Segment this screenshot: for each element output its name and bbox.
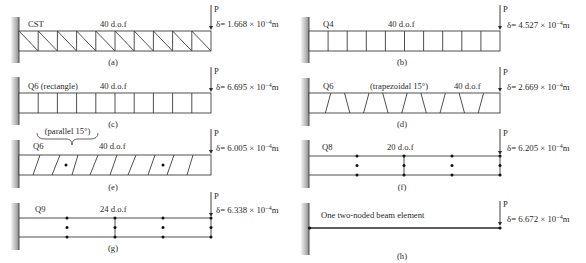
panel-caption: (g)	[108, 243, 118, 253]
panel-d-q6-trapezoidal: Q6 (trapezoidal 15°) 40 d.o.f P δ= 2.669…	[301, 67, 570, 129]
arrowhead-icon	[209, 213, 213, 217]
panel-caption: (e)	[108, 182, 118, 192]
panel-e-q6-parallel: (parallel 15°) Q6 40 d.o.f P δ= 6.005 × …	[11, 126, 279, 192]
mesh-nodes	[66, 217, 213, 239]
element-center-node	[162, 164, 165, 167]
element-type-label: Q9	[35, 204, 46, 214]
panel-b-q4: Q4 40 d.o.f P δ= 4.527 × 10−4m (b)	[301, 4, 570, 67]
arrowhead-icon	[209, 88, 213, 92]
arrowhead-icon	[498, 88, 502, 92]
load-label: P	[214, 66, 219, 76]
fixed-support-wall	[301, 78, 309, 126]
panel-caption: (a)	[108, 57, 118, 67]
element-type-label: Q8	[322, 142, 333, 152]
element-type-label: Q6 (rectangle)	[28, 81, 78, 91]
load-label: P	[214, 4, 219, 14]
deflection-value: δ= 6.695 × 10−4m	[216, 82, 279, 93]
mesh-note-label: (parallel 15°)	[45, 126, 91, 136]
panel-caption: (c)	[108, 119, 118, 129]
arrowhead-icon	[498, 26, 502, 30]
panel-h-beam-element: One two-noded beam element P δ= 6.672 × …	[301, 199, 570, 261]
dof-label: 40 d.o.f	[388, 19, 415, 29]
fixed-support-wall	[11, 140, 19, 188]
load-label: P	[503, 199, 508, 209]
panel-f-q8: Q8 20 d.o.f P δ= 6.205 × 10−4m (f)	[301, 128, 570, 192]
deflection-value: δ= 6.672 × 10−4m	[507, 214, 570, 225]
dof-label: 24 d.o.f	[100, 204, 127, 214]
dof-label: 40 d.o.f	[454, 81, 481, 91]
beam-outline	[19, 155, 211, 175]
dof-label: 40 d.o.f	[99, 141, 126, 151]
load-label: P	[214, 128, 219, 138]
fixed-support-wall	[301, 203, 309, 255]
deflection-value: δ= 6.205 × 10−4m	[507, 143, 570, 154]
panel-caption: (b)	[397, 57, 407, 67]
element-center-node	[65, 164, 68, 167]
mesh-nodes	[356, 155, 502, 177]
deflection-value: δ= 2.669 × 10−4m	[507, 82, 570, 93]
arrowhead-icon	[498, 151, 502, 155]
load-label: P	[214, 191, 219, 201]
panel-a-cst: CST 40 d.o.f P δ= 1.668 × 10−4m (a)	[11, 4, 279, 67]
deflection-value: δ= 6.338 × 10−4m	[216, 205, 279, 216]
arrowhead-icon	[209, 26, 213, 30]
load-label: P	[503, 67, 508, 77]
dof-label: 40 d.o.f	[100, 19, 127, 29]
element-type-label: Q4	[323, 19, 334, 29]
panel-c-q6-rectangle: Q6 (rectangle) 40 d.o.f P δ= 6.695 × 10−…	[11, 66, 279, 129]
panel-caption: (d)	[397, 119, 407, 129]
load-label: P	[503, 4, 508, 14]
deflection-value: δ= 1.668 × 10−4m	[216, 19, 279, 30]
deflection-value: δ= 4.527 × 10−4m	[507, 20, 570, 31]
fixed-support-wall	[301, 17, 309, 63]
beam-node	[498, 226, 501, 229]
element-type-label: Q6	[33, 141, 44, 151]
element-type-label: One two-noded beam element	[321, 210, 425, 220]
fixed-support-wall	[11, 77, 19, 125]
mesh-note-label: (trapezoidal 15°)	[370, 81, 428, 91]
arrowhead-icon	[498, 222, 502, 226]
element-type-label: CST	[28, 19, 45, 29]
dof-label: 40 d.o.f	[100, 81, 127, 91]
element-type-label: Q6	[323, 81, 334, 91]
dof-label: 20 d.o.f	[387, 142, 414, 152]
panel-caption: (h)	[397, 251, 407, 261]
fixed-support-wall	[301, 140, 309, 188]
load-label: P	[503, 128, 508, 138]
deflection-value: δ= 6.005 × 10−4m	[216, 143, 279, 154]
panel-caption: (f)	[398, 182, 407, 192]
arrowhead-icon	[209, 150, 213, 154]
fixed-support-wall	[11, 203, 19, 250]
panel-g-q9: Q9 24 d.o.f P δ= 6.338 × 10−4m (g)	[11, 191, 279, 253]
fixed-support-wall	[11, 17, 19, 63]
beam-node	[308, 226, 311, 229]
cantilever-mesh-comparison-figure: CST 40 d.o.f P δ= 1.668 × 10−4m (a) Q4 4…	[0, 0, 586, 263]
